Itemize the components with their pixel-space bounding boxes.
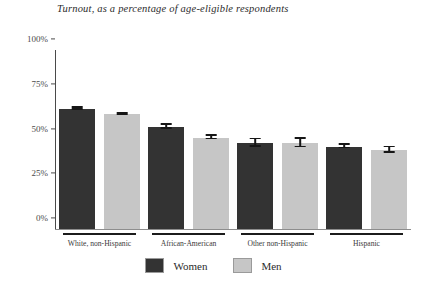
group-rule bbox=[152, 233, 225, 235]
bar-men[interactable] bbox=[193, 45, 229, 229]
bar-women[interactable] bbox=[148, 45, 184, 229]
x-axis-category-label: Hispanic bbox=[322, 239, 411, 248]
error-bar-cap-bottom bbox=[295, 146, 306, 148]
error-bar bbox=[254, 138, 256, 147]
bar-women[interactable] bbox=[326, 45, 362, 229]
chart-title: Turnout, as a percentage of age-eligible… bbox=[57, 3, 289, 14]
x-axis-line bbox=[55, 229, 411, 230]
legend-label-women: Women bbox=[173, 260, 207, 272]
plot-area: 0%25%50%75%100% bbox=[55, 45, 411, 229]
group-rule bbox=[330, 233, 403, 235]
x-axis-category-label: Other non-Hispanic bbox=[233, 239, 322, 248]
legend-item-men: Men bbox=[233, 258, 281, 273]
bar-group-bars bbox=[144, 45, 233, 229]
error-bar bbox=[210, 134, 212, 139]
error-bar-cap-top bbox=[384, 146, 395, 148]
bar-men[interactable] bbox=[282, 45, 318, 229]
bar-rect bbox=[148, 127, 184, 229]
error-bar-cap-bottom bbox=[206, 138, 217, 140]
error-bar-cap-top bbox=[161, 123, 172, 125]
error-bar bbox=[343, 143, 345, 148]
bar-rect bbox=[237, 143, 273, 229]
error-bar bbox=[299, 137, 301, 148]
bar-rect bbox=[104, 114, 140, 229]
legend-item-women: Women bbox=[145, 258, 207, 273]
error-bar-cap-top bbox=[339, 143, 350, 145]
y-axis-tick-label: 25% bbox=[32, 168, 56, 178]
error-bar bbox=[388, 146, 390, 153]
bar-group bbox=[322, 45, 411, 229]
error-bar-cap-bottom bbox=[339, 147, 350, 149]
error-bar bbox=[165, 123, 167, 128]
bar-men[interactable] bbox=[104, 45, 140, 229]
bar-group bbox=[233, 45, 322, 229]
x-axis-category-label: White, non-Hispanic bbox=[55, 239, 144, 248]
bar-men[interactable] bbox=[371, 45, 407, 229]
bar-rect bbox=[193, 138, 229, 229]
error-bar bbox=[121, 112, 123, 116]
error-bar-cap-top bbox=[295, 137, 306, 139]
error-bar-cap-bottom bbox=[384, 151, 395, 153]
bar-group bbox=[55, 45, 144, 229]
bar-group-bars bbox=[55, 45, 144, 229]
error-bar-cap-bottom bbox=[72, 108, 83, 110]
error-bar-cap-bottom bbox=[250, 145, 261, 147]
y-axis-tick-label: 75% bbox=[32, 79, 56, 89]
y-axis-tick-label: 50% bbox=[32, 124, 56, 134]
chart-legend: Women Men bbox=[0, 258, 427, 273]
bar-rect bbox=[326, 147, 362, 229]
bar-group bbox=[144, 45, 233, 229]
bar-group-bars bbox=[322, 45, 411, 229]
legend-swatch-men-icon bbox=[233, 258, 252, 273]
error-bar-cap-bottom bbox=[161, 127, 172, 129]
bar-rect bbox=[59, 109, 95, 229]
error-bar-cap-top bbox=[250, 138, 261, 140]
y-axis-tick-label: 0% bbox=[36, 213, 55, 223]
error-bar bbox=[76, 106, 78, 110]
bar-rect bbox=[371, 150, 407, 229]
bar-group-bars bbox=[233, 45, 322, 229]
bar-rect bbox=[282, 143, 318, 229]
group-rule bbox=[63, 233, 136, 235]
legend-swatch-women-icon bbox=[145, 258, 164, 273]
legend-label-men: Men bbox=[261, 260, 281, 272]
error-bar-cap-top bbox=[206, 134, 217, 136]
y-axis-tick-label: 100% bbox=[27, 34, 55, 44]
bar-women[interactable] bbox=[59, 45, 95, 229]
error-bar-cap-bottom bbox=[117, 113, 128, 115]
x-axis-category-label: African-American bbox=[144, 239, 233, 248]
group-rule bbox=[241, 233, 314, 235]
bar-women[interactable] bbox=[237, 45, 273, 229]
chart-figure: Turnout, as a percentage of age-eligible… bbox=[0, 0, 427, 291]
